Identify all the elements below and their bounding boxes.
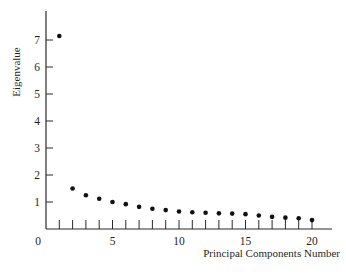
x-axis-ticks: 05101520 xyxy=(35,220,318,247)
data-point xyxy=(97,196,102,201)
x-tick-label: 15 xyxy=(240,235,252,247)
y-tick-label: 3 xyxy=(34,142,40,154)
data-point xyxy=(150,206,155,211)
data-point xyxy=(124,202,129,207)
x-axis-label: Principal Components Number xyxy=(203,247,340,259)
data-point xyxy=(217,211,222,216)
y-tick-label: 1 xyxy=(34,196,40,208)
data-point xyxy=(243,212,248,217)
y-tick-label: 6 xyxy=(34,61,40,73)
data-point xyxy=(230,211,235,216)
y-tick-label: 7 xyxy=(34,34,40,46)
y-tick-label: 4 xyxy=(34,115,40,127)
data-point xyxy=(137,205,142,210)
data-point xyxy=(70,186,75,191)
axes xyxy=(46,11,332,229)
data-points xyxy=(57,34,314,223)
data-point xyxy=(84,193,89,198)
data-point xyxy=(270,215,275,220)
y-axis-label: Eigenvalue xyxy=(10,47,22,97)
y-tick-label: 5 xyxy=(34,88,40,100)
scree-plot: 1234567 05101520 Eigenvalue Principal Co… xyxy=(0,0,346,276)
data-point xyxy=(163,208,168,213)
y-axis-ticks: 1234567 xyxy=(34,34,53,208)
data-point xyxy=(177,209,182,214)
data-point xyxy=(110,200,115,205)
x-tick-label: 5 xyxy=(110,235,116,247)
x-tick-label: 20 xyxy=(306,235,318,247)
data-point xyxy=(57,34,62,39)
data-point xyxy=(190,210,195,215)
y-tick-label: 2 xyxy=(34,169,40,181)
x-tick-label: 10 xyxy=(173,235,185,247)
data-point xyxy=(310,218,315,223)
data-point xyxy=(296,216,301,221)
data-point xyxy=(257,213,262,218)
data-point xyxy=(203,211,208,216)
data-point xyxy=(283,215,288,220)
x-tick-label: 0 xyxy=(35,235,41,247)
